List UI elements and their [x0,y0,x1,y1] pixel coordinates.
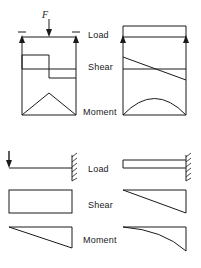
shear-diagram [22,48,76,115]
shear-diagram [123,190,186,213]
beam-diagram-figure: F [0,0,201,268]
moment-diagram [9,227,72,248]
point-load-arrow-icon [6,151,12,168]
support-fixed-hatched-icon [72,153,77,181]
row-label-load-top: Load [88,31,109,40]
case-simply-supported-uniform-load [118,0,201,134]
case-svg [118,134,201,268]
support-left-pin-icon [18,32,26,48]
case-cantilever-uniform-load [118,134,201,268]
moment-curve [9,227,72,248]
point-load-arrow-icon [46,19,52,37]
case-svg [0,0,84,134]
row-label-shear-top: Shear [88,63,113,72]
load-diagram [18,19,80,48]
load-diagram [6,151,77,181]
case-cantilever-point-load [0,134,84,268]
moment-curve [22,93,76,115]
moment-diagram [123,99,186,116]
shear-rect [9,190,72,213]
moment-diagram [22,93,76,115]
shear-curve [123,190,186,213]
row-label-shear-bottom: Shear [88,201,113,210]
moment-curve [123,227,186,251]
shear-diagram [123,48,186,115]
shear-diagram [9,190,72,213]
load-diagram [123,153,191,181]
case-simply-supported-point-load: F [0,0,84,134]
support-right-pin-icon [72,32,80,48]
moment-curve [123,99,186,116]
row-label-moment-top: Moment [83,108,117,117]
load-diagram [120,26,189,48]
row-label-moment-bottom: Moment [83,236,117,245]
force-label: F [42,10,48,20]
case-svg [118,0,201,134]
support-fixed-hatched-icon [186,153,191,181]
moment-diagram [123,227,186,251]
row-label-load-bottom: Load [88,165,109,174]
case-svg [0,134,84,268]
